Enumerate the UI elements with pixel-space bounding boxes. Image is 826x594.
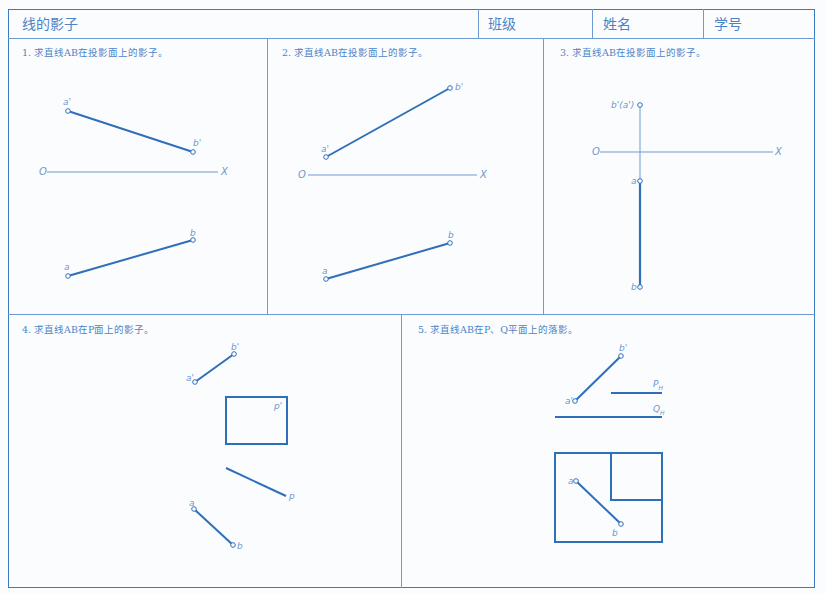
p1-label-a-prime: a' [63,98,71,107]
p5-label-a: a [568,477,574,486]
p5-label-p-h-sub: H [658,384,663,391]
p2-label-b: b [448,231,454,240]
p3-label-a: a [631,177,637,186]
problem-3-drawing [600,103,773,290]
p4-label-a: a [189,499,195,508]
p3-label-b-prime-a-prime: b'(a') [611,101,634,110]
p2-label-o: O [298,170,306,180]
p1-label-b: b [190,229,196,238]
p5-label-q-h: QH [653,405,665,416]
p2-label-x: X [480,170,487,180]
problem-5-drawing [555,354,662,542]
problem-4-drawing [192,352,287,548]
worksheet: 线的影子 班级 姓名 学号 1. 求直线AB在投影面上的影子。 2. 求直线AB… [0,0,826,594]
problem-1-drawing [47,109,218,279]
p5-label-q-h-sub: H [660,409,665,416]
p1-label-a: a [64,263,70,272]
p5-label-p-h: PH [653,380,663,391]
p5-label-a-prime: a' [565,397,573,406]
p2-label-a: a [322,267,328,276]
p5-label-b: b [612,529,618,538]
p4-label-p: p [289,492,295,501]
p3-label-o: O [592,147,600,157]
p4-label-b-prime: b' [231,343,239,352]
p1-label-b-prime: b' [193,139,201,148]
p3-label-x: X [775,147,782,157]
p4-label-a-prime: a' [186,374,194,383]
p3-label-b: b [631,283,637,292]
p2-label-b-prime: b' [455,83,463,92]
p5-label-b-prime: b' [619,344,627,353]
p4-label-b: b [237,542,243,551]
p1-label-o: O [39,167,47,177]
p2-label-a-prime: a' [321,145,329,154]
problem-2-drawing [308,86,477,282]
p4-label-p-prime: p' [274,402,282,411]
p1-label-x: X [221,167,228,177]
projection-drawings [0,0,826,594]
